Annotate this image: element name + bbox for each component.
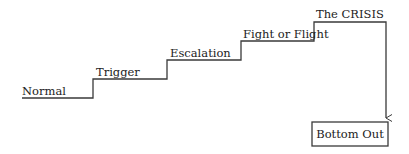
step-label-fight-or-flight: Fight or Flight <box>243 27 329 41</box>
step-label-normal: Normal <box>22 84 66 98</box>
step-label-escalation: Escalation <box>170 46 231 60</box>
bottom-out-label: Bottom Out <box>316 127 384 141</box>
step-label-trigger: Trigger <box>96 65 140 79</box>
step-label-the-crisis: The CRISIS <box>316 7 384 21</box>
staircase-line <box>22 22 386 118</box>
crisis-staircase-diagram: Normal Trigger Escalation Fight or Fligh… <box>0 0 409 154</box>
